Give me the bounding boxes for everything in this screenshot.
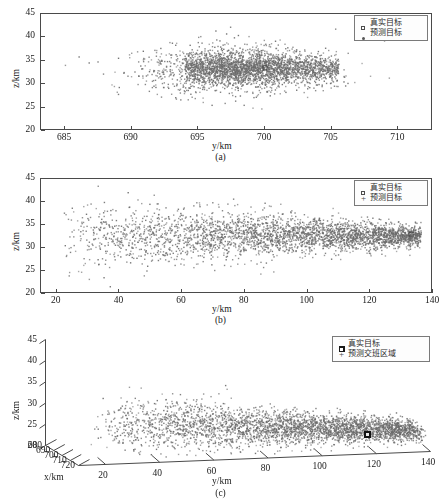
y-tick-mark [41, 247, 45, 248]
panel-c-y-tick-label: 100 [313, 462, 327, 472]
panel-c-legend-label-0: 真实目标 [348, 339, 380, 349]
plus-icon: + [358, 193, 369, 203]
panel-c-y-axis-label: y/km [212, 477, 232, 487]
y-tick-label: 20 [26, 125, 36, 135]
y-tick-mark [41, 83, 45, 84]
panel-a-legend-label-1: 预测目标 [370, 28, 402, 38]
panel-a-y-axis-label: z/km [12, 69, 22, 88]
x-tick-mark [264, 126, 265, 130]
panel-a-legend-label-0: 真实目标 [370, 18, 402, 28]
x-tick-mark [307, 289, 308, 293]
x-tick-label: 700 [257, 133, 271, 143]
y-tick-mark [41, 270, 45, 271]
panel-b-legend-label-1: 预测目标 [370, 193, 402, 203]
x-tick-mark [56, 289, 57, 293]
panel-a-caption: (a) [0, 152, 441, 162]
panel-b-legend-row-0: 真实目标 [358, 183, 423, 193]
panel-c-z-tick-label: 30 [28, 399, 38, 409]
panel-c-y-tick-label: 140 [421, 458, 435, 468]
y-tick-label: 25 [26, 102, 36, 112]
panel-c-legend-row-0: 真实目标 [336, 339, 425, 349]
y-tick-mark [41, 107, 45, 108]
x-tick-mark [369, 289, 370, 293]
x-tick-label: 100 [299, 296, 313, 306]
x-tick-mark [131, 126, 132, 130]
y-tick-mark [41, 130, 45, 131]
x-tick-label: 695 [190, 133, 204, 143]
y-tick-mark [41, 201, 45, 202]
panel-c-z-tick-label: 35 [28, 378, 38, 388]
panel-a-legend: 真实目标 预测目标 [354, 15, 428, 41]
panel-b-legend-label-0: 真实目标 [370, 183, 402, 193]
y-tick-mark [41, 293, 45, 294]
x-tick-label: 120 [362, 296, 376, 306]
y-tick-mark [41, 13, 45, 14]
y-tick-label: 45 [26, 173, 36, 183]
panel-c-y-tick-label: 20 [98, 471, 108, 481]
panel-c-x-tick-label: 720 [61, 461, 75, 471]
panel-c-z-axis-label: z/km [12, 401, 22, 420]
x-tick-mark [244, 289, 245, 293]
x-tick-label: 140 [425, 296, 439, 306]
x-tick-label: 60 [176, 296, 186, 306]
x-tick-label: 685 [57, 133, 71, 143]
panel-c-y-tick-label: 120 [367, 460, 381, 470]
y-tick-label: 35 [26, 219, 36, 229]
y-tick-label: 35 [26, 55, 36, 65]
panel-b-legend: 真实目标 + 预测目标 [354, 180, 428, 206]
y-tick-label: 45 [26, 8, 36, 18]
x-tick-label: 40 [114, 296, 124, 306]
panel-a-x-axis-label: y/km [212, 142, 232, 152]
panel-b-legend-row-1: + 预测目标 [358, 193, 423, 203]
panel-c-y-tick-label: 60 [207, 467, 217, 477]
figure-scatter-panels: z/km y/km (a) 真实目标 预测目标 6856906957007057… [0, 0, 441, 501]
x-tick-mark [331, 126, 332, 130]
x-tick-mark [118, 289, 119, 293]
y-tick-label: 30 [26, 242, 36, 252]
panel-a-legend-row-0: 真实目标 [358, 18, 423, 28]
panel-c-y-tick-label: 80 [261, 464, 271, 474]
panel-c-legend-label-1: 预测交班区域 [348, 349, 396, 359]
y-tick-mark [41, 36, 45, 37]
y-tick-label: 25 [26, 265, 36, 275]
x-tick-mark [64, 126, 65, 130]
panel-c-legend-row-1: + 预测交班区域 [336, 349, 425, 359]
y-tick-label: 40 [26, 32, 36, 42]
panel-c-z-tick-label: 45 [28, 335, 38, 345]
panel-b-x-axis-label: y/km [212, 305, 232, 315]
x-tick-mark [397, 126, 398, 130]
panel-c-legend: 真实目标 + 预测交班区域 [332, 336, 430, 362]
y-tick-label: 40 [26, 196, 36, 206]
y-tick-mark [41, 178, 45, 179]
panel-c: z/km x/km y/km (c) 真实目标 + 预测交班区域 2025303… [0, 325, 441, 501]
panel-b-y-axis-label: z/km [12, 232, 22, 251]
x-tick-mark [197, 126, 198, 130]
x-tick-label: 710 [390, 133, 404, 143]
plus-icon: + [336, 349, 347, 359]
panel-c-y-tick-label: 40 [152, 469, 162, 479]
y-tick-label: 20 [26, 288, 36, 298]
panel-c-caption: (c) [0, 488, 441, 498]
panel-c-z-tick-label: 25 [28, 420, 38, 430]
x-tick-label: 80 [239, 296, 249, 306]
y-tick-mark [41, 224, 45, 225]
x-tick-label: 705 [324, 133, 338, 143]
x-tick-mark [432, 289, 433, 293]
x-tick-mark [181, 289, 182, 293]
y-tick-mark [41, 60, 45, 61]
panel-c-true-target-marker [364, 431, 371, 438]
panel-a: z/km y/km (a) 真实目标 预测目标 6856906957007057… [0, 0, 441, 165]
y-tick-label: 30 [26, 78, 36, 88]
panel-c-x-axis-label: x/km [44, 473, 64, 483]
panel-b: z/km y/km (b) 真实目标 + 预测目标 20406080100120… [0, 165, 441, 325]
x-tick-label: 20 [51, 296, 61, 306]
x-tick-label: 690 [124, 133, 138, 143]
panel-b-caption: (b) [0, 315, 441, 325]
panel-a-legend-row-1: 预测目标 [358, 28, 423, 38]
panel-c-z-tick-label: 40 [28, 356, 38, 366]
